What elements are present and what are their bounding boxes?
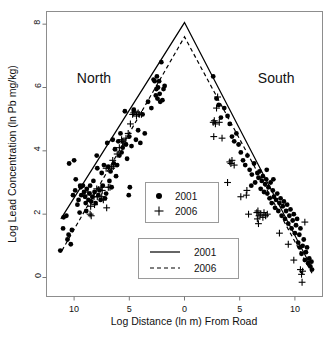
data-point	[76, 198, 81, 203]
data-point	[305, 245, 310, 250]
data-point	[254, 216, 261, 223]
data-point	[298, 271, 305, 278]
data-point	[73, 177, 78, 182]
data-point	[134, 137, 139, 142]
data-point	[87, 203, 94, 210]
legend-marker-circle-icon	[156, 193, 162, 199]
data-point	[253, 180, 258, 185]
annotation-south: South	[258, 70, 295, 86]
region-annotations: NorthSouth	[77, 70, 295, 86]
data-point	[265, 191, 270, 196]
lead-concentration-scatter-plot: 1050510 02468 NorthSouth 2001 2006 2001 …	[0, 0, 335, 342]
data-point	[243, 163, 248, 168]
fit-lines	[61, 23, 313, 275]
data-point	[107, 179, 112, 184]
data-point	[298, 226, 303, 231]
data-point	[287, 213, 292, 218]
data-point	[245, 211, 252, 218]
data-point	[291, 212, 296, 217]
data-point	[114, 174, 119, 179]
y-tick-label: 4	[33, 146, 43, 151]
data-point	[104, 191, 109, 196]
data-point	[61, 226, 66, 231]
data-point	[247, 167, 252, 172]
data-point	[162, 84, 167, 89]
data-point	[88, 212, 95, 219]
data-point	[285, 241, 292, 248]
data-point	[290, 218, 295, 223]
data-point	[301, 237, 306, 242]
legend-points: 2001 2006	[146, 183, 219, 223]
data-point	[249, 172, 254, 177]
legend-lines: 2001 2006	[139, 239, 239, 279]
data-point	[297, 232, 302, 237]
data-point	[99, 171, 104, 176]
data-point	[227, 160, 234, 167]
data-point	[261, 209, 268, 216]
data-point	[91, 179, 96, 184]
y-tick-label: 0	[33, 273, 43, 278]
fit-line-2001	[61, 23, 313, 270]
data-point	[219, 135, 226, 142]
data-point	[122, 109, 127, 114]
data-point	[126, 193, 131, 198]
data-point	[127, 185, 132, 190]
data-point	[152, 79, 157, 84]
data-point	[243, 192, 250, 199]
data-point	[299, 279, 306, 286]
x-tick-label: 5	[127, 304, 132, 314]
x-tick-label: 0	[182, 304, 187, 314]
data-point	[290, 257, 297, 264]
data-point	[138, 141, 143, 146]
data-point	[129, 144, 134, 149]
data-point	[276, 230, 283, 237]
x-axis-ticks: 1050510	[69, 297, 300, 314]
x-tick-label: 10	[290, 304, 300, 314]
data-point	[136, 128, 141, 133]
data-point	[241, 158, 246, 163]
x-tick-label: 5	[237, 304, 242, 314]
data-point	[232, 139, 237, 144]
data-point	[271, 177, 276, 182]
data-point	[236, 142, 241, 147]
x-axis-label: Log Distance (ln m) From Road	[111, 315, 258, 327]
data-point	[211, 117, 218, 124]
data-point	[285, 202, 290, 207]
data-point	[142, 131, 147, 136]
legend-lines-label-2006: 2006	[194, 263, 217, 274]
data-point	[224, 179, 231, 186]
data-point	[216, 119, 223, 126]
data-point	[105, 184, 112, 191]
data-point	[238, 150, 243, 155]
data-point	[295, 217, 300, 222]
data-point	[77, 210, 82, 215]
y-tick-label: 8	[33, 20, 43, 25]
data-point	[294, 223, 299, 228]
data-point	[73, 188, 78, 193]
data-point	[243, 187, 250, 194]
data-point	[118, 131, 123, 136]
data-point	[160, 98, 165, 103]
x-tick-label: 10	[69, 304, 79, 314]
data-point	[88, 183, 93, 188]
legend-points-label-2006: 2006	[175, 206, 198, 217]
data-point	[95, 166, 100, 171]
data-point	[157, 91, 162, 96]
data-point	[264, 211, 271, 218]
data-point	[264, 167, 269, 172]
data-point	[68, 242, 73, 247]
data-point	[67, 161, 72, 166]
y-axis-label: Log Lead Concentration (ln Pb mg/kg)	[6, 65, 18, 242]
y-axis-ticks: 02468	[33, 20, 47, 278]
annotation-north: North	[77, 70, 111, 86]
legend-lines-label-2001: 2001	[194, 247, 217, 258]
data-point	[255, 220, 262, 227]
data-point	[75, 202, 80, 207]
y-tick-label: 6	[33, 83, 43, 88]
data-point	[249, 183, 254, 188]
data-point	[284, 209, 289, 214]
legend-lines-box	[139, 239, 239, 279]
data-point	[94, 153, 99, 158]
data-point	[149, 106, 154, 111]
data-point	[103, 204, 110, 211]
